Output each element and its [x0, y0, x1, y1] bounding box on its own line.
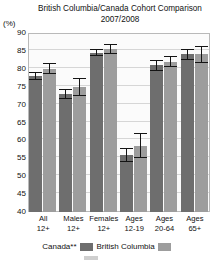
bar-british-columbia — [104, 49, 117, 212]
x-axis: All12+Males12+Females12+Ages12-19Ages20-… — [28, 214, 210, 240]
bar-british-columbia — [164, 62, 177, 212]
error-bar-cap-bottom — [134, 157, 147, 158]
error-bar-stem — [126, 148, 127, 162]
y-axis-tick-label: 80 — [2, 65, 26, 73]
bar-british-columbia — [195, 54, 208, 212]
y-axis-tick-label: 45 — [2, 190, 26, 198]
x-axis-tick-line: 65+ — [176, 224, 213, 234]
bar-group — [28, 33, 58, 212]
legend-item-canada: Canada** — [42, 242, 92, 251]
error-bar — [195, 46, 208, 64]
y-axis-tick-label: 55 — [2, 154, 26, 162]
bar-canada — [59, 94, 72, 212]
chart-title-line-1: British Columbia/Canada Cohort Compariso… — [30, 4, 210, 15]
bar-canada — [90, 53, 103, 212]
error-bar — [164, 56, 177, 67]
error-bar-cap-top — [195, 46, 208, 47]
chart-title: British Columbia/Canada Cohort Compariso… — [30, 4, 210, 25]
legend-swatch-canada — [80, 243, 93, 251]
bar-canada — [150, 65, 163, 212]
bar-group — [89, 33, 119, 212]
error-bar-cap-bottom — [164, 66, 177, 67]
y-axis-tick-label: 65 — [2, 119, 26, 127]
chart-figure: British Columbia/Canada Cohort Compariso… — [0, 0, 213, 260]
error-bar-cap-top — [29, 72, 42, 73]
error-bar-cap-bottom — [90, 55, 103, 56]
y-axis-tick-label: 60 — [2, 136, 26, 144]
y-axis-tick-label: 50 — [2, 172, 26, 180]
y-axis-tick-label: 40 — [2, 208, 26, 216]
error-bar — [150, 60, 163, 71]
bar-group — [119, 33, 149, 212]
error-bar-cap-bottom — [43, 73, 56, 74]
error-bar-cap-bottom — [59, 98, 72, 99]
bar-canada — [120, 155, 133, 212]
bar-group — [149, 33, 179, 212]
y-axis: 4045505560657075808590 — [0, 33, 26, 212]
error-bar-cap-bottom — [73, 95, 86, 96]
bar-canada — [29, 76, 42, 212]
error-bar-cap-bottom — [104, 53, 117, 54]
bars-layer — [28, 33, 210, 212]
y-axis-tick-label: 70 — [2, 101, 26, 109]
error-bar-cap-top — [43, 63, 56, 64]
legend-item-british-columbia: British Columbia — [97, 242, 171, 251]
legend-swatch-british-columbia — [158, 243, 171, 251]
error-bar-cap-top — [164, 56, 177, 57]
error-bar-cap-bottom — [181, 59, 194, 60]
error-bar — [90, 49, 103, 56]
bar-british-columbia — [43, 69, 56, 212]
legend-label-canada: Canada** — [42, 242, 76, 251]
error-bar-cap-top — [90, 49, 103, 50]
chart-title-line-2: 2007/2008 — [30, 15, 210, 26]
error-bar-cap-bottom — [195, 62, 208, 63]
error-bar — [73, 78, 86, 96]
error-bar — [43, 63, 56, 74]
bar-canada — [181, 54, 194, 212]
error-bar-cap-bottom — [120, 161, 133, 162]
error-bar-cap-bottom — [29, 79, 42, 80]
error-bar-cap-top — [134, 133, 147, 134]
error-bar-stem — [140, 133, 141, 158]
error-bar-stem — [201, 46, 202, 64]
error-bar — [134, 133, 147, 158]
error-bar — [104, 44, 117, 55]
x-axis-tick-label: Ages65+ — [176, 214, 213, 234]
error-bar — [29, 72, 42, 79]
error-bar-cap-top — [59, 89, 72, 90]
error-bar-stem — [79, 78, 80, 96]
y-axis-tick-label: 75 — [2, 83, 26, 91]
error-bar-cap-top — [104, 44, 117, 45]
error-bar — [120, 148, 133, 162]
y-axis-tick-label: 85 — [2, 47, 26, 55]
error-bar — [181, 49, 194, 60]
chart-legend: Canada** British Columbia — [0, 242, 213, 251]
error-bar-cap-top — [181, 49, 194, 50]
bar-group — [180, 33, 210, 212]
error-bar-cap-bottom — [150, 70, 163, 71]
bar-group — [58, 33, 88, 212]
bar-british-columbia — [73, 87, 86, 212]
error-bar-cap-top — [150, 60, 163, 61]
error-bar-cap-top — [120, 148, 133, 149]
legend-label-british-columbia: British Columbia — [97, 242, 155, 251]
error-bar-cap-top — [73, 78, 86, 79]
y-axis-tick-label: 90 — [2, 29, 26, 37]
y-axis-unit-label: (%) — [3, 19, 15, 28]
x-axis-tick-line: Ages — [176, 214, 213, 224]
error-bar — [59, 89, 72, 100]
legend-overflow-marker — [84, 256, 98, 260]
